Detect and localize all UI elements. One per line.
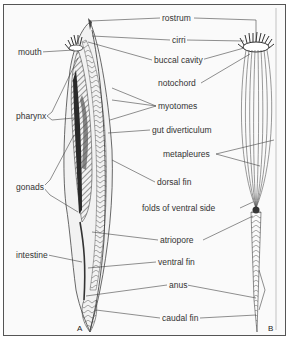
label-ventral-fin: ventral fin	[157, 257, 196, 267]
figure-b-body	[238, 8, 276, 332]
label-mouth: mouth	[17, 47, 43, 57]
label-gut-diverticulum: gut diverticulum	[151, 125, 213, 135]
label-rostrum: rostrum	[161, 13, 192, 23]
label-metapleures: metapleures	[162, 149, 211, 159]
label-buccal-cavity: buccal cavity	[153, 55, 204, 65]
label-atriopore: atriopore	[159, 235, 195, 245]
figure-label-a: A	[77, 324, 82, 333]
label-intestine: intestine	[15, 250, 49, 260]
figure-a-body	[64, 18, 112, 332]
label-notochord: notochord	[157, 78, 197, 88]
label-anus: anus	[168, 280, 188, 290]
label-cirri: cirri	[171, 35, 187, 45]
label-gonads: gonads	[15, 182, 45, 192]
label-folds-of-ventral-side: folds of ventral side	[141, 203, 216, 213]
figure-label-b: B	[268, 324, 273, 333]
label-myotomes: myotomes	[157, 101, 198, 111]
label-pharynx: pharynx	[15, 111, 47, 121]
anatomy-illustration	[0, 0, 290, 341]
label-dorsal-fin: dorsal fin	[156, 177, 193, 187]
label-caudal-fin: caudal fin	[161, 313, 199, 323]
